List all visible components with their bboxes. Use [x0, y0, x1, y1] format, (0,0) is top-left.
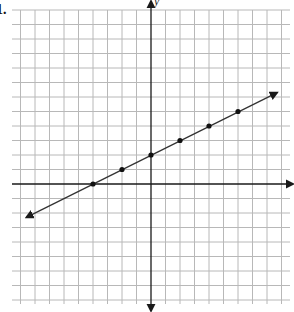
data-point: [206, 123, 211, 128]
coordinate-graph: [0, 0, 294, 312]
data-point: [177, 138, 182, 143]
data-point: [119, 167, 124, 172]
data-point: [148, 152, 153, 157]
y-axis-label: y: [154, 0, 159, 9]
data-point: [90, 181, 95, 186]
data-point: [235, 109, 240, 114]
question-number: 1.: [0, 2, 7, 18]
